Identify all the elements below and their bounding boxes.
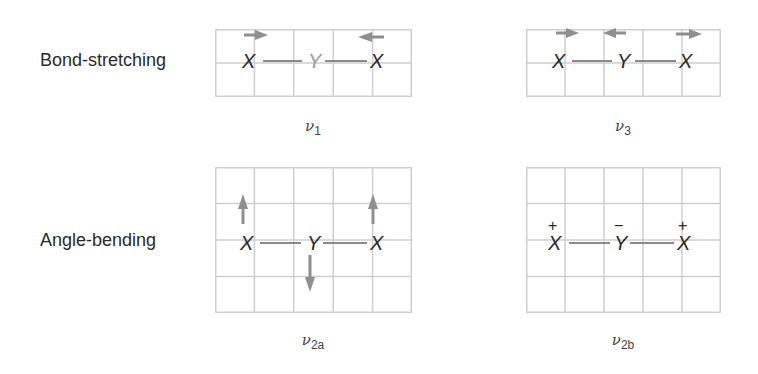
- atom-x-left: X: [547, 232, 562, 254]
- atom-x-left: X: [241, 50, 256, 72]
- nu2b-diagram: + − + X Y X: [526, 167, 721, 313]
- atom-x-left: X: [239, 232, 254, 254]
- atom-x-right: X: [678, 50, 693, 72]
- atom-x-right: X: [369, 50, 384, 72]
- atom-x-right: X: [369, 232, 384, 254]
- atom-x-right: X: [676, 232, 691, 254]
- caption-nu3: ν3: [563, 117, 683, 138]
- caption-nu1: ν1: [253, 117, 373, 138]
- nu1-diagram: X Y X: [215, 29, 412, 97]
- atom-y-center: Y: [307, 232, 322, 254]
- atom-x-left: X: [551, 50, 566, 72]
- row-label-angle-bending: Angle-bending: [40, 230, 156, 251]
- arrow-left-icon: [358, 32, 384, 42]
- arrow-up-icon: [368, 194, 378, 224]
- arrow-right-icon: [244, 30, 268, 40]
- row-label-bond-stretching: Bond-stretching: [40, 50, 166, 71]
- panel-nu2a: X Y X: [215, 167, 412, 313]
- panel-nu3: X Y X: [526, 29, 721, 97]
- nu3-diagram: X Y X: [526, 29, 721, 97]
- atom-y-center: Y: [308, 50, 323, 72]
- atom-y-center: Y: [614, 232, 629, 254]
- panel-nu1: X Y X: [215, 29, 412, 97]
- arrow-down-icon: [305, 255, 315, 292]
- arrow-up-icon: [238, 194, 248, 224]
- caption-nu2b: ν2b: [563, 331, 683, 352]
- nu2a-diagram: X Y X: [215, 167, 412, 313]
- caption-nu2a: ν2a: [253, 331, 373, 352]
- atom-y-center: Y: [617, 50, 632, 72]
- panel-nu2b: + − + X Y X: [526, 167, 721, 313]
